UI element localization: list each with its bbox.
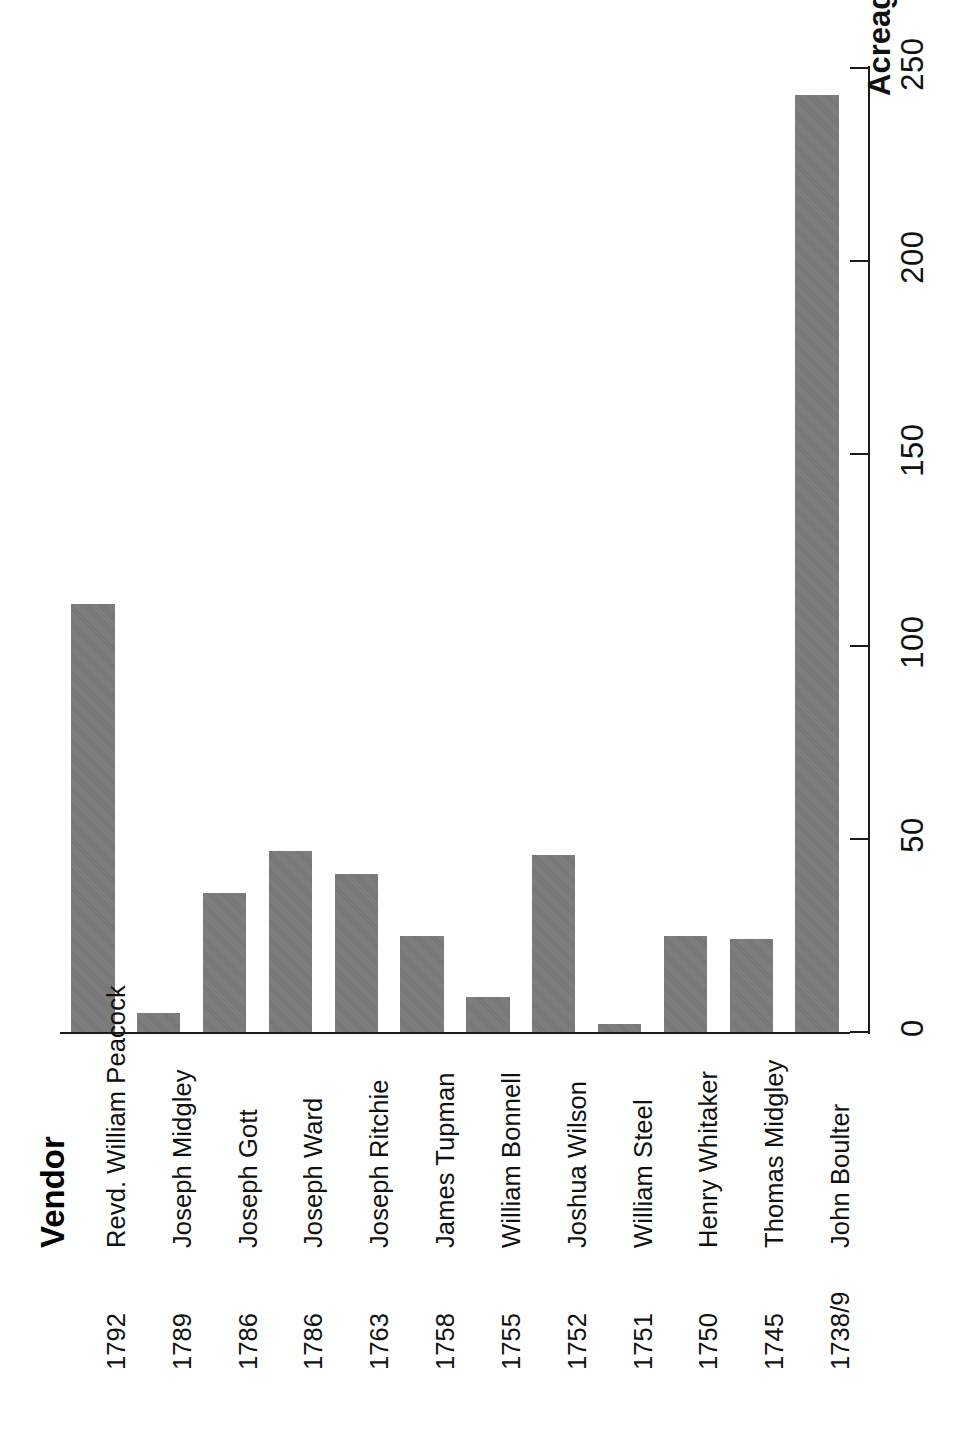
category-label: Joseph Ward <box>299 1098 328 1248</box>
bar <box>400 936 443 1032</box>
bar-chart: 050100150200250 Acreage Revd. William Pe… <box>0 0 973 1429</box>
value-axis-tick <box>850 645 868 647</box>
plot-area <box>60 40 850 1032</box>
category-year-label: 1755 <box>497 1313 526 1370</box>
bar <box>730 939 773 1032</box>
category-label: Joshua Wilson <box>563 1081 592 1248</box>
value-axis-title: Acreage <box>862 0 898 96</box>
value-axis-tick-label: 0 <box>895 1001 931 1055</box>
value-axis-tick <box>850 1031 868 1033</box>
bar <box>664 936 707 1032</box>
category-year-label: 1792 <box>102 1313 131 1370</box>
value-axis-tick-label: 150 <box>895 423 931 477</box>
value-axis-tick-label: 100 <box>895 615 931 669</box>
value-axis <box>868 66 870 1034</box>
bar <box>795 95 838 1032</box>
bar <box>203 893 246 1032</box>
bar <box>466 997 509 1032</box>
bar <box>335 874 378 1032</box>
category-year-label: 1786 <box>299 1313 328 1370</box>
category-year-label: 1786 <box>234 1313 263 1370</box>
bar <box>598 1024 641 1032</box>
category-label: Thomas Midgley <box>760 1060 789 1248</box>
bar <box>269 851 312 1032</box>
category-axis-line <box>60 1032 850 1034</box>
category-year-label: 1738/9 <box>826 1291 855 1370</box>
bar <box>71 604 114 1032</box>
category-label: Joseph Midgley <box>168 1069 197 1248</box>
category-year-label: 1751 <box>629 1313 658 1370</box>
category-year-label: 1745 <box>760 1313 789 1370</box>
category-year-label: 1752 <box>563 1313 592 1370</box>
value-axis-tick <box>850 260 868 262</box>
category-label: William Bonnell <box>497 1072 526 1248</box>
category-label: Revd. William Peacock <box>102 985 131 1248</box>
category-axis-title: Vendor <box>34 1136 72 1248</box>
category-label: William Steel <box>629 1099 658 1248</box>
category-label: James Tupman <box>431 1072 460 1248</box>
category-label: Henry Whitaker <box>694 1071 723 1248</box>
value-axis-tick-label: 200 <box>895 230 931 284</box>
category-year-label: 1763 <box>365 1313 394 1370</box>
category-year-label: 1789 <box>168 1313 197 1370</box>
category-year-label: 1758 <box>431 1313 460 1370</box>
category-year-label: 1750 <box>694 1313 723 1370</box>
value-axis-tick-label: 50 <box>895 808 931 862</box>
value-axis-tick-label: 250 <box>895 37 931 91</box>
value-axis-tick <box>850 453 868 455</box>
category-label: John Boulter <box>826 1104 855 1248</box>
bar <box>137 1013 180 1032</box>
bar <box>532 855 575 1032</box>
value-axis-tick <box>850 838 868 840</box>
category-label: Joseph Ritchie <box>365 1079 394 1248</box>
category-label: Joseph Gott <box>234 1109 263 1248</box>
